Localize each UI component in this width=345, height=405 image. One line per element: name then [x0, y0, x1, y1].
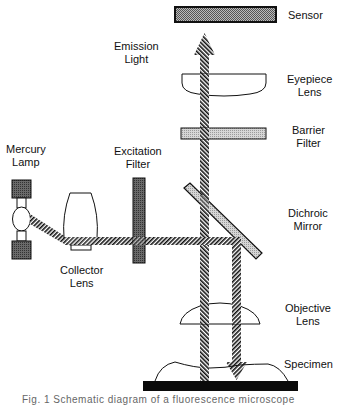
label-barrier-filter: Barrier Filter — [292, 124, 325, 150]
label-emission-light: Emission Light — [114, 40, 159, 66]
excitation-filter — [133, 178, 145, 263]
excitation-beam-angled — [30, 214, 66, 245]
figure-caption: Fig. 1 Schematic diagram of a fluorescen… — [22, 394, 295, 405]
label-collector-lens: Collector Lens — [60, 264, 103, 290]
label-dichroic-mirror: Dichroic Mirror — [288, 207, 328, 233]
eyepiece-lens — [182, 74, 266, 96]
label-excitation-filter: Excitation Filter — [114, 145, 162, 171]
label-mercury-lamp: Mercury Lamp — [6, 143, 46, 169]
mercury-lamp — [12, 180, 31, 259]
barrier-filter — [181, 128, 266, 139]
collector-lens — [64, 193, 98, 250]
sensor — [175, 7, 276, 22]
objective-lens — [180, 303, 260, 324]
specimen — [155, 362, 288, 381]
dichroic-mirror — [184, 183, 262, 259]
slide — [143, 381, 298, 391]
label-sensor: Sensor — [288, 9, 323, 22]
label-objective-lens: Objective Lens — [285, 302, 331, 328]
label-eyepiece-lens: Eyepiece Lens — [287, 73, 332, 99]
label-specimen: Specimen — [284, 358, 333, 371]
